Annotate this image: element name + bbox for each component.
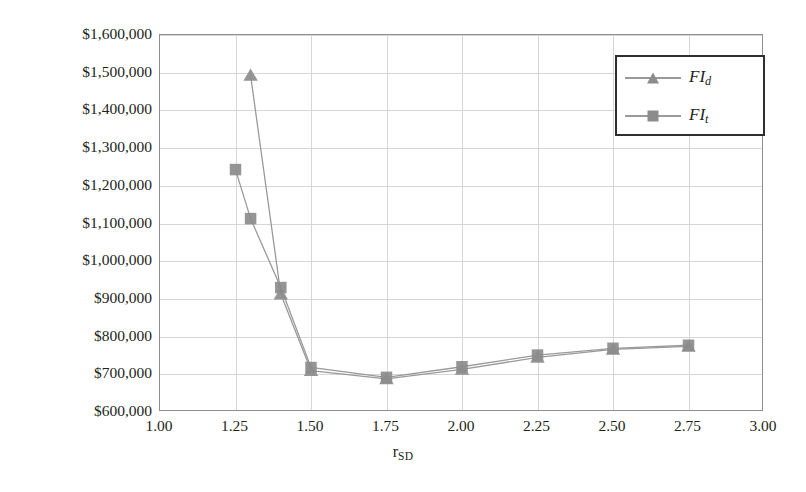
data-point-square [607,343,619,355]
legend-label-fid: FId [689,67,711,89]
data-point-square [683,340,695,352]
data-point-square [381,372,393,384]
triangle-marker-icon [646,71,660,85]
legend-label-fit-subscript: t [705,112,709,126]
legend-item-fit: FIt [617,99,763,133]
x-axis-title: rSD [0,443,806,462]
legend-symbol-square [617,106,689,126]
x-axis-tick-label: 1.50 [296,418,323,434]
x-axis-tick-label: 2.25 [523,418,550,434]
data-point-square [305,362,317,374]
legend-label-fid-base: FI [689,67,705,86]
x-axis-tick-label: 2.50 [598,418,625,434]
x-axis-tick-label: 3.00 [749,418,776,434]
x-axis-tick-label: 2.75 [674,418,701,434]
x-axis-tick-label: 1.75 [372,418,399,434]
square-marker-icon [646,109,660,123]
data-point-square [275,282,287,294]
legend-label-fit: FIt [689,105,709,127]
legend-label-fid-subscript: d [705,74,711,88]
data-point-square [532,349,544,361]
legend-item-fid: FId [617,61,763,95]
legend-symbol-triangle [617,68,689,88]
x-axis-tick-label: 1.25 [221,418,248,434]
series-line-fi-t [236,170,689,378]
legend-label-fit-base: FI [689,105,705,124]
data-point-square [456,361,468,373]
data-point-square [245,213,257,225]
data-point-triangle [243,68,257,80]
data-point-square [230,164,242,176]
chart-legend: FId FIt [615,55,765,136]
x-axis-tick-label: 1.00 [145,418,172,434]
chart-figure: Minimum TAC ($) $600,000$700,000$800,000… [0,0,806,492]
x-axis-title-subscript: SD [398,450,413,462]
x-axis-tick-label: 2.00 [447,418,474,434]
